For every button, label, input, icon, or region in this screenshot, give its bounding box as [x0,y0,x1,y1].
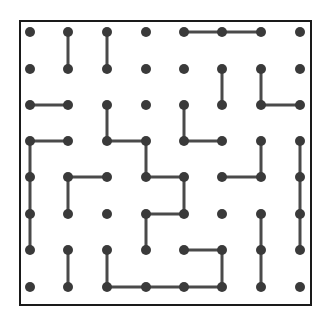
grid-dot[interactable] [217,100,227,110]
grid-dot[interactable] [179,27,189,37]
grid-dot[interactable] [102,27,112,37]
grid-dot[interactable] [217,27,227,37]
grid-dot[interactable] [141,136,151,146]
grid-dot[interactable] [102,64,112,74]
grid-dot[interactable] [63,172,73,182]
grid-dot[interactable] [102,172,112,182]
grid-dot[interactable] [63,136,73,146]
grid-dot[interactable] [256,136,266,146]
grid-dot[interactable] [179,64,189,74]
grid-dot[interactable] [179,282,189,292]
grid-dot[interactable] [295,64,305,74]
grid-dot[interactable] [102,282,112,292]
grid-dot[interactable] [102,136,112,146]
grid-dot[interactable] [217,245,227,255]
grid-dot[interactable] [295,136,305,146]
grid-dot[interactable] [217,136,227,146]
grid-dot[interactable] [295,209,305,219]
grid-dot[interactable] [217,209,227,219]
grid-dot[interactable] [25,136,35,146]
grid-dot[interactable] [179,100,189,110]
grid-dot[interactable] [102,100,112,110]
grid-dot[interactable] [141,64,151,74]
grid-dot[interactable] [217,282,227,292]
grid-dot[interactable] [63,64,73,74]
grid-dot[interactable] [25,282,35,292]
grid-dot[interactable] [179,136,189,146]
grid-dot[interactable] [256,27,266,37]
grid-dot[interactable] [63,282,73,292]
grid-dot[interactable] [141,172,151,182]
grid-dot[interactable] [256,172,266,182]
grid-dot[interactable] [295,100,305,110]
grid-dot[interactable] [63,209,73,219]
grid-dot[interactable] [25,209,35,219]
grid-dot[interactable] [141,100,151,110]
grid-dot[interactable] [256,245,266,255]
grid-dot[interactable] [141,27,151,37]
puzzle-board [0,0,327,318]
grid-dot[interactable] [25,64,35,74]
grid-dot[interactable] [141,282,151,292]
grid-dot[interactable] [25,245,35,255]
grid-dot[interactable] [217,64,227,74]
board-background [0,0,327,318]
grid-dot[interactable] [295,172,305,182]
grid-dot[interactable] [256,282,266,292]
grid-dot[interactable] [179,245,189,255]
grid-dot[interactable] [25,100,35,110]
grid-dot[interactable] [179,172,189,182]
grid-dot[interactable] [295,245,305,255]
grid-dot[interactable] [25,172,35,182]
grid-dot[interactable] [141,209,151,219]
grid-dot[interactable] [63,100,73,110]
grid-dot[interactable] [102,209,112,219]
grid-dot[interactable] [102,245,112,255]
grid-dot[interactable] [25,27,35,37]
grid-dot[interactable] [256,209,266,219]
grid-dot[interactable] [295,27,305,37]
grid-dot[interactable] [256,100,266,110]
grid-dot[interactable] [63,27,73,37]
grid-dot[interactable] [63,245,73,255]
grid-dot[interactable] [179,209,189,219]
grid-dot[interactable] [217,172,227,182]
grid-dot[interactable] [295,282,305,292]
grid-dot[interactable] [141,245,151,255]
grid-dot[interactable] [256,64,266,74]
